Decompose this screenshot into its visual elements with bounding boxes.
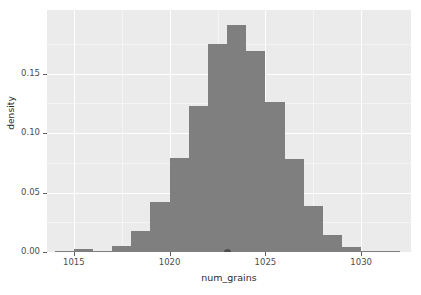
gridline-major-vertical <box>74 10 75 252</box>
histogram-bar <box>342 247 361 252</box>
histogram-bar <box>112 246 131 252</box>
histogram-bar <box>304 206 323 252</box>
x-axis-tick <box>74 252 75 256</box>
x-axis-tick-label: 1025 <box>255 257 277 267</box>
histogram-bar <box>74 249 93 252</box>
histogram-bar <box>246 51 265 252</box>
x-axis-tick <box>265 252 266 256</box>
y-axis-tick-label: 0.15 <box>21 68 40 78</box>
x-axis-tick-label: 1015 <box>63 257 85 267</box>
y-axis-tick-label: 0.05 <box>21 187 40 197</box>
histogram-bar <box>208 44 227 252</box>
histogram-bar <box>93 251 112 252</box>
y-axis-tick-label: 0.00 <box>21 246 40 256</box>
histogram-bar <box>150 202 169 252</box>
histogram-bar <box>285 159 304 252</box>
histogram-bar <box>227 25 246 252</box>
x-axis-tick-label: 1020 <box>159 257 181 267</box>
y-axis-tick-label: 0.10 <box>21 127 40 137</box>
x-axis-tick-label: 1030 <box>350 257 372 267</box>
gridline-minor-vertical <box>122 10 123 252</box>
y-axis-title: density <box>6 78 16 148</box>
histogram-bar <box>323 235 342 252</box>
chart-figure: density 0.000.050.100.15 101510201025103… <box>0 0 421 295</box>
histogram-bar <box>361 251 380 252</box>
x-axis-title: num_grains <box>47 272 411 283</box>
y-axis-tick <box>43 252 47 253</box>
histogram-bar <box>131 231 150 252</box>
gridline-major-vertical <box>361 10 362 252</box>
x-axis-tick <box>170 252 171 256</box>
histogram-bar <box>380 251 399 252</box>
rug-point-icon <box>224 249 231 253</box>
histogram-bar <box>265 102 284 252</box>
plot-panel <box>47 10 411 252</box>
histogram-bar <box>170 158 189 252</box>
histogram-bar <box>55 251 74 252</box>
histogram-bar <box>189 106 208 252</box>
x-axis-tick <box>361 252 362 256</box>
